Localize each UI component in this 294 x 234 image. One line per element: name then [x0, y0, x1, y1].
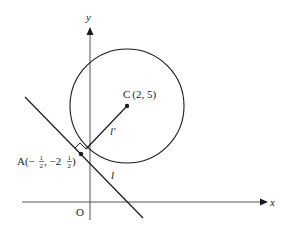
origin-label: O: [76, 206, 84, 218]
fraction-denominator: 2: [68, 162, 72, 170]
fraction-denominator: 2: [40, 162, 44, 170]
radius-line-label: l′: [110, 125, 116, 137]
point-a-label: A(− 1 2 , −2 1 2 ): [17, 154, 76, 170]
coordinate-diagram: y x O l l′ C(2, 5) A(− 1 2 , −2 1 2 ): [0, 0, 294, 234]
fraction-numerator: 1: [40, 154, 44, 162]
point-a: [79, 152, 83, 156]
fraction-numerator: 1: [68, 154, 72, 162]
x-axis-arrow-icon: [260, 199, 268, 206]
tangent-line-label: l: [111, 169, 114, 181]
svg-text:, −2: , −2: [44, 155, 61, 167]
y-axis-label: y: [85, 11, 91, 23]
point-c: [125, 104, 129, 108]
svg-text:A(−: A(−: [17, 155, 35, 168]
x-axis-label: x: [269, 196, 275, 208]
y-axis-arrow-icon: [87, 27, 94, 35]
point-c-label: C(2, 5): [123, 88, 157, 101]
radius-line-l-prime: [86, 106, 127, 149]
svg-text:): ): [72, 155, 76, 168]
